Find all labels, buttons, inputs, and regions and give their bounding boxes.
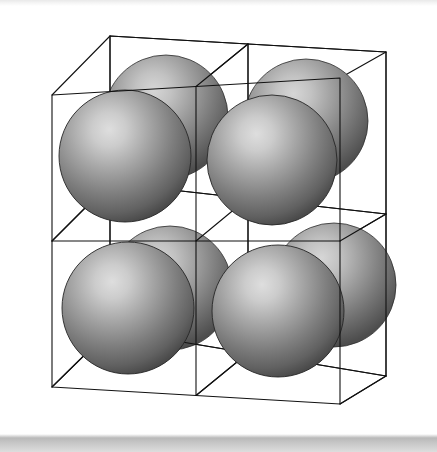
figure-page xyxy=(0,0,437,452)
sphere-front-bottom-left xyxy=(62,242,194,374)
lattice-figure xyxy=(0,0,437,452)
lattice-svg xyxy=(0,0,437,452)
sphere-front-top-right xyxy=(207,95,337,225)
sphere-front-top-left xyxy=(59,90,191,222)
bottom-edge-strip xyxy=(0,434,437,452)
sphere-front-bottom-right xyxy=(212,245,344,377)
